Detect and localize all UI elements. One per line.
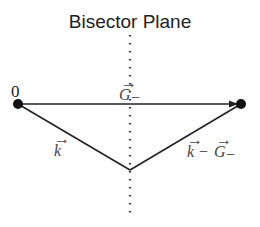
diagram-title: Bisector Plane: [69, 11, 192, 32]
bisector-diagram: Bisector Plane 0 → G − → k → k − → G −: [0, 0, 260, 227]
g-symbol: G: [119, 86, 131, 103]
origin-label: 0: [11, 82, 20, 101]
g-minus-label: → G −: [119, 74, 140, 106]
g-symbol: G: [214, 143, 226, 160]
k-symbol: k: [187, 143, 195, 160]
minus-operator: −: [199, 143, 208, 160]
minus-subscript: −: [131, 89, 140, 106]
k-symbol: k: [54, 142, 62, 159]
k-minus-g-label: → k − → G −: [187, 131, 235, 163]
vector-k-line: [18, 104, 130, 170]
k-label: → k: [54, 130, 70, 159]
minus-subscript: −: [226, 146, 235, 163]
endpoint-point: [236, 99, 246, 109]
